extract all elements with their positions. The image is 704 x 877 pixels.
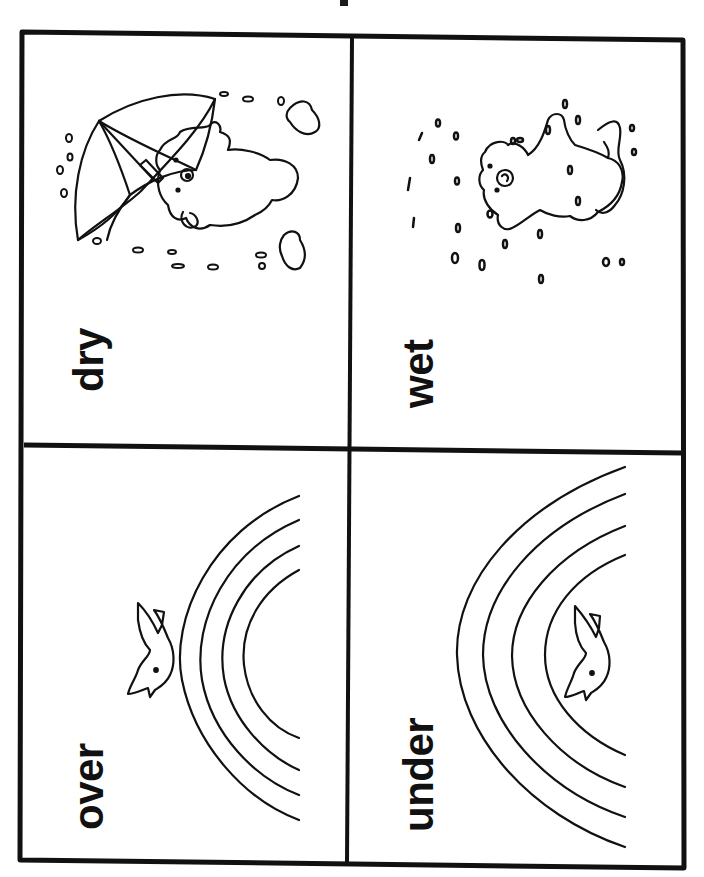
- bird-icon: [128, 603, 174, 697]
- puddle-icon: [287, 101, 320, 134]
- bear-icon: [156, 122, 298, 228]
- under-illustration: [457, 467, 625, 847]
- umbrella-icon: [75, 95, 215, 240]
- card-label-wet: wet: [398, 339, 440, 408]
- card-label-under: under: [398, 718, 440, 832]
- bird-icon: [565, 606, 610, 700]
- over-illustration: [128, 496, 299, 820]
- raindrops: [57, 92, 284, 270]
- wet-illustration: [408, 100, 636, 283]
- card-grid-frame: [20, 32, 684, 868]
- worksheet-page: dry wet over under: [0, 0, 704, 877]
- puddle-icon: [280, 231, 305, 269]
- dry-illustration: [57, 92, 319, 270]
- card-label-over: over: [68, 743, 110, 830]
- rainbow-icon: [180, 496, 299, 820]
- rainbow-icon: [457, 467, 625, 847]
- card-label-dry: dry: [68, 328, 110, 392]
